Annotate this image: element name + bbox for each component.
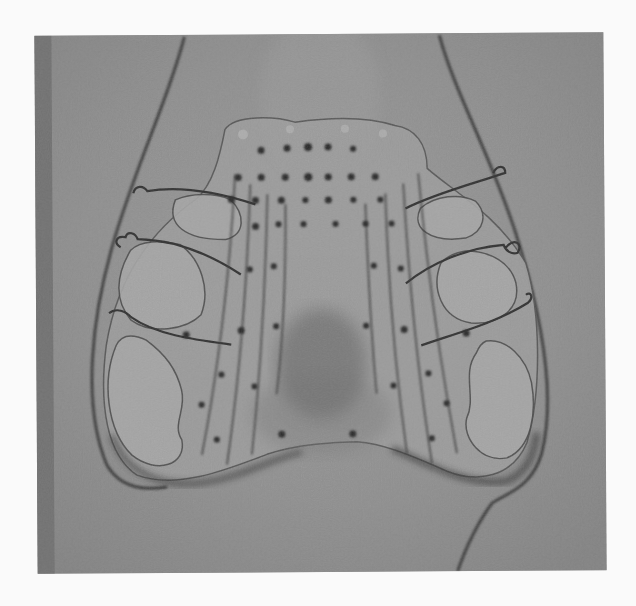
palate-photograph	[34, 32, 606, 573]
page: Electropalatography artificial palate wi…	[0, 0, 636, 606]
grain-overlay	[34, 32, 606, 573]
palate-illustration	[34, 32, 606, 573]
image-description: Electropalatography artificial palate wi…	[0, 0, 1, 1]
